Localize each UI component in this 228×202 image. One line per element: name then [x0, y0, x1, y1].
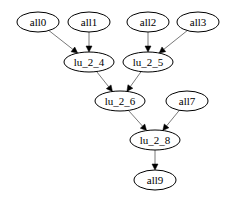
node-label: lu_2_8 — [140, 134, 171, 146]
edge-all2-to-lu_2_5 — [145, 32, 151, 52]
edge-line — [167, 110, 180, 126]
arrowhead-icon — [145, 46, 151, 52]
edge-lu_2_8-to-all9 — [152, 150, 158, 170]
edge-line — [164, 31, 187, 50]
nodes-layer: all0all1all2all3lu_2_4lu_2_5lu_2_6all7lu… — [17, 12, 219, 190]
node-label: all2 — [140, 16, 157, 28]
dependency-graph: all0all1all2all3lu_2_4lu_2_5lu_2_6all7lu… — [0, 0, 228, 202]
node-label: lu_2_6 — [105, 95, 136, 107]
edge-line — [128, 110, 142, 126]
node-all1: all1 — [68, 12, 110, 32]
edge-line — [130, 72, 141, 87]
node-lu_2_5: lu_2_5 — [123, 52, 173, 72]
node-label: all7 — [179, 95, 196, 107]
edge-all0-to-lu_2_4 — [49, 31, 78, 54]
arrowhead-icon — [152, 164, 158, 170]
edge-line — [97, 72, 109, 87]
arrowhead-icon — [106, 85, 112, 92]
node-label: all3 — [190, 16, 207, 28]
node-all7: all7 — [166, 91, 208, 111]
edge-lu_2_4-to-lu_2_6 — [97, 72, 113, 92]
node-lu_2_4: lu_2_4 — [64, 52, 114, 72]
node-lu_2_6: lu_2_6 — [95, 91, 145, 111]
node-all2: all2 — [127, 12, 169, 32]
node-label: lu_2_5 — [133, 56, 164, 68]
node-lu_2_8: lu_2_8 — [130, 130, 180, 150]
edge-all1-to-lu_2_4 — [86, 32, 92, 52]
arrowhead-icon — [127, 85, 133, 92]
edge-all3-to-lu_2_5 — [159, 31, 187, 53]
arrowhead-icon — [159, 47, 166, 53]
edge-lu_2_5-to-lu_2_6 — [127, 72, 141, 92]
edge-lu_2_6-to-lu_2_8 — [128, 110, 146, 130]
node-label: all1 — [81, 16, 98, 28]
node-label: all9 — [147, 174, 164, 186]
node-label: all0 — [30, 16, 47, 28]
arrowhead-icon — [86, 46, 92, 52]
node-all3: all3 — [177, 12, 219, 32]
arrowhead-icon — [71, 47, 78, 53]
arrowhead-icon — [163, 124, 169, 131]
edge-all7-to-lu_2_8 — [163, 110, 180, 130]
node-label: lu_2_4 — [74, 56, 105, 68]
edge-line — [49, 31, 73, 50]
node-all9: all9 — [134, 170, 176, 190]
node-all0: all0 — [17, 12, 59, 32]
